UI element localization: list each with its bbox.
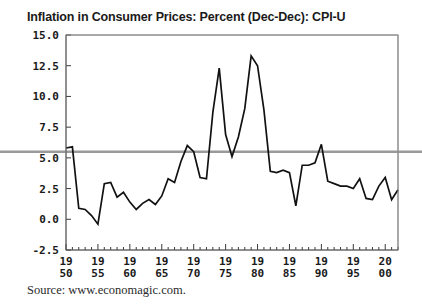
y-axis-tick-label: -2.5: [33, 244, 60, 257]
x-axis-tick-label-year: 60: [123, 267, 136, 280]
y-axis-tick-label: 15.0: [33, 29, 60, 42]
x-axis-tick-label-year: 55: [91, 267, 104, 280]
x-axis-tick-label-year: 80: [251, 267, 264, 280]
plot-frame: [66, 35, 398, 250]
chart-figure: Inflation in Consumer Prices: Percent (D…: [0, 0, 422, 306]
x-axis-tick-label-year: 00: [379, 267, 392, 280]
x-axis-tick-label-year: 50: [59, 267, 72, 280]
x-axis-tick-label-year: 95: [347, 267, 360, 280]
y-axis-tick-label: 12.5: [33, 60, 60, 73]
x-axis-tick-label-year: 85: [283, 267, 296, 280]
y-axis-tick-label: 7.5: [39, 121, 59, 134]
source-note: Source: www.economagic.com.: [27, 283, 186, 298]
y-axis-tick-label: 2.5: [39, 183, 59, 196]
y-axis-tick-label: 10.0: [33, 90, 60, 103]
chart-plot-area: 15.012.510.07.55.02.50.0-2.5195019551960…: [0, 0, 422, 306]
y-axis-tick-label: 5.0: [39, 152, 59, 165]
x-axis-tick-label-year: 75: [219, 267, 232, 280]
x-axis-tick-label-year: 65: [155, 267, 168, 280]
x-axis-tick-label-year: 70: [187, 267, 200, 280]
y-axis-tick-label: 0.0: [39, 213, 59, 226]
x-axis-tick-label-year: 90: [315, 267, 328, 280]
